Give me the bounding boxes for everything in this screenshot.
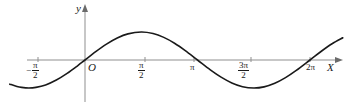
origin-label: O — [88, 62, 96, 73]
x-tick-label-neg-pi-over-2: − π 2 — [26, 61, 39, 81]
x-tick-label-pi: π — [190, 63, 195, 72]
fraction-3pi-over-2: 3π 2 — [238, 61, 249, 81]
minus-sign-glyph: − — [26, 66, 31, 75]
x-axis-label: X — [327, 62, 334, 73]
sine-curve-figure: y O X − π 2 π 2 π 3π 2 2π — [0, 0, 349, 106]
fraction-pi-over-2: π 2 — [138, 61, 145, 81]
y-axis-label: y — [76, 3, 81, 14]
x-tick-label-2pi: 2π — [306, 63, 315, 72]
x-tick-label-3pi-over-2: 3π 2 — [238, 61, 249, 81]
fraction-denominator: 2 — [138, 71, 145, 80]
plot-canvas — [0, 0, 349, 106]
fraction-denominator: 2 — [240, 71, 247, 80]
fraction-denominator: 2 — [32, 71, 39, 80]
x-axis-arrowhead — [335, 57, 343, 63]
y-axis-arrowhead — [82, 4, 88, 12]
fraction-pi-over-2: π 2 — [32, 61, 39, 81]
x-tick-label-pi-over-2: π 2 — [138, 61, 145, 81]
